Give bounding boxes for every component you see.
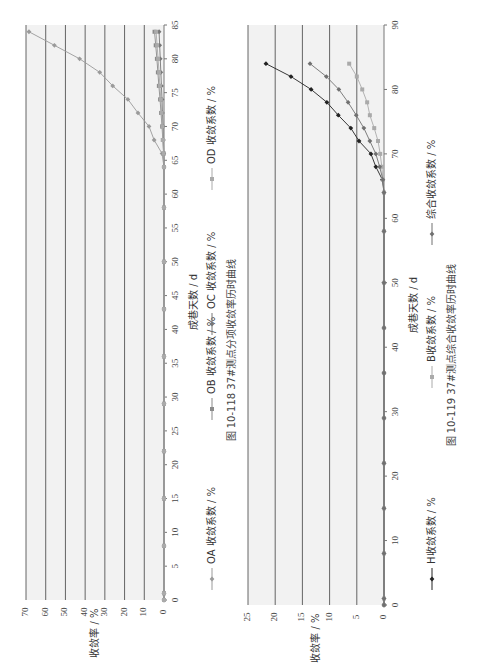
plot-area [26,25,164,600]
x-tick-label: 80 [170,54,180,64]
data-point-marker [347,62,351,66]
x-tick-label: 35 [170,358,180,368]
legend-marker [210,577,215,582]
legend-label: OA 收敛系数 / % [205,487,217,564]
legend-label: OB 收敛系数 / % [205,317,217,394]
data-point-marker [162,307,166,311]
x-tick-label: 5 [170,563,180,568]
x-tick-label: 50 [170,257,180,267]
figure-caption: 图 10-118 37#测点分项收敛率历时曲线 [225,259,237,442]
x-tick-label: 10 [390,536,400,546]
y-tick-label: 30 [99,607,109,617]
x-tick-label: 50 [390,278,400,288]
x-tick-label: 0 [390,602,400,607]
x-tick-label: 20 [390,471,400,481]
x-tick-label: 75 [170,88,180,98]
legend-marker [430,375,434,379]
x-tick-label: 70 [170,121,180,130]
data-point-marker [158,84,162,88]
data-point-marker [365,100,369,104]
data-point-marker [360,87,364,91]
data-point-marker [378,152,382,156]
y-tick-label: 50 [59,607,69,617]
y-tick-label: 20 [119,607,129,617]
legend-label: OC 收敛系数 / % [205,232,217,309]
legend-label: B收敛系数 / % [425,296,437,362]
data-point-marker [162,354,166,358]
y-tick-label: 0 [378,614,388,619]
y-tick-label: 0 [158,609,168,614]
x-tick-label: 40 [390,342,400,352]
data-point-marker [368,113,372,117]
data-point-marker [162,497,166,501]
data-point-marker [162,449,166,453]
legend-marker [210,177,214,181]
x-tick-label: 30 [170,392,180,402]
legend-label: H收敛系数 / % [425,497,437,564]
x-tick-label: 0 [170,597,180,602]
data-point-marker [162,598,166,602]
legend-marker [430,577,435,582]
data-point-marker [162,402,166,406]
x-tick-label: 60 [170,189,180,199]
data-point-marker [162,206,166,210]
data-point-marker [372,126,376,130]
y-tick-label: 10 [138,607,148,617]
data-point-marker [376,139,380,143]
y-tick-label: 20 [269,612,279,622]
data-point-marker [162,544,166,548]
x-tick-label: 15 [170,494,180,504]
x-tick-label: 65 [170,155,180,165]
legend-marker [210,407,214,411]
data-point-marker [156,57,160,61]
data-point-marker [162,260,166,264]
x-tick-label: 45 [170,291,180,301]
x-tick-label: 30 [390,407,400,417]
data-point-marker [355,75,359,79]
x-tick-label: 80 [390,84,400,94]
y-tick-label: 40 [79,607,89,617]
y-tick-label: 15 [296,612,306,622]
data-point-marker [162,152,166,156]
x-axis-title: 成巷天数 / d [407,277,419,333]
y-tick-label: 70 [20,607,30,617]
x-tick-label: 10 [170,527,180,537]
y-axis-title: 收敛率 / % [88,608,100,657]
y-tick-label: 5 [351,614,361,619]
x-tick-label: 40 [170,324,180,334]
data-point-marker [154,30,158,34]
x-tick-label: 90 [390,20,400,30]
figure-caption: 图 10-119 37#测点综合收敛率历时曲线 [445,264,457,447]
chart-fig-10-118: 0510152025303540455055606570758085010203… [20,20,237,658]
chart-fig-10-119: 01020304050607080900510152025收敛率 / %成巷天数… [242,20,457,663]
data-point-marker [155,43,159,47]
data-point-marker [160,124,164,128]
y-tick-label: 10 [324,612,334,622]
data-point-marker [159,97,163,101]
legend-marker [430,232,435,237]
y-tick-label: 25 [242,612,252,622]
y-axis-title: 收敛率 / % [309,613,321,662]
x-tick-label: 25 [170,426,180,436]
legend-label: 综合收敛系数 / % [425,140,437,219]
x-tick-label: 70 [390,149,400,159]
plot-area [248,25,384,605]
data-point-marker [161,138,165,142]
data-point-marker [162,165,166,169]
x-tick-label: 60 [390,213,400,223]
data-point-marker [162,591,166,595]
x-tick-label: 20 [170,460,180,470]
legend-label: OD 收敛系数 / % [205,86,217,164]
data-point-marker [160,111,164,115]
x-axis-title: 成巷天数 / d [187,274,199,330]
y-tick-label: 60 [40,607,50,617]
page-canvas: 0510152025303540455055606570758085010203… [0,0,480,669]
x-tick-label: 85 [170,20,180,30]
x-tick-label: 55 [170,223,180,233]
data-point-marker [157,70,161,74]
